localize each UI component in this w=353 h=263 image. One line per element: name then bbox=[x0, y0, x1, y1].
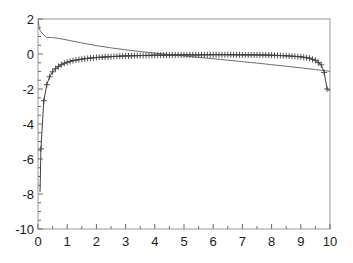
cross-marker bbox=[70, 58, 76, 64]
x-tick-label: 7 bbox=[239, 234, 246, 249]
plot-frame bbox=[38, 19, 330, 229]
y-tick-label: -4 bbox=[22, 117, 34, 132]
cross-marker bbox=[61, 60, 67, 66]
y-tick-label: 2 bbox=[27, 12, 34, 27]
y-tick-label: -10 bbox=[15, 222, 34, 237]
cross-marker bbox=[304, 55, 310, 61]
x-tick-label: 5 bbox=[180, 234, 187, 249]
series-layer bbox=[38, 19, 330, 192]
x-axis: 012345678910 bbox=[34, 224, 337, 249]
cross-marker bbox=[38, 146, 44, 152]
series-curve-marked bbox=[38, 52, 330, 192]
y-tick-label: -8 bbox=[22, 187, 34, 202]
x-tick-label: 4 bbox=[151, 234, 158, 249]
x-tick-label: 8 bbox=[268, 234, 275, 249]
x-tick-label: 0 bbox=[34, 234, 41, 249]
cross-marker bbox=[309, 56, 315, 62]
cross-marker bbox=[44, 82, 50, 88]
line-chart: 012345678910 20-2-4-6-8-10 bbox=[0, 0, 353, 263]
x-tick-label: 9 bbox=[297, 234, 304, 249]
x-tick-label: 6 bbox=[210, 234, 217, 249]
cross-marker bbox=[41, 98, 47, 104]
cross-marker bbox=[73, 57, 79, 63]
x-tick-label: 10 bbox=[323, 234, 337, 249]
cross-marker bbox=[298, 54, 304, 60]
cross-marker bbox=[324, 86, 330, 92]
series-curve-upper bbox=[38, 19, 330, 71]
y-tick-label: -6 bbox=[22, 152, 34, 167]
y-tick-label: -2 bbox=[22, 82, 34, 97]
x-tick-label: 2 bbox=[93, 234, 100, 249]
y-axis: 20-2-4-6-8-10 bbox=[15, 12, 43, 237]
cross-marker bbox=[301, 54, 307, 60]
x-tick-label: 3 bbox=[122, 234, 129, 249]
x-tick-label: 1 bbox=[64, 234, 71, 249]
cross-marker bbox=[64, 59, 70, 65]
cross-marker bbox=[307, 55, 313, 61]
cross-marker bbox=[47, 74, 53, 80]
y-tick-label: 0 bbox=[27, 47, 34, 62]
cross-marker bbox=[67, 58, 73, 64]
